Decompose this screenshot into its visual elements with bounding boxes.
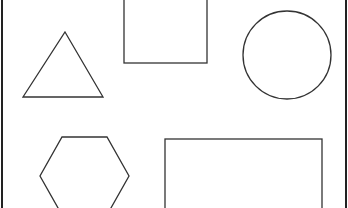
hexagon-shape [40,137,129,208]
rectangle-shape [165,139,322,208]
circle-shape [243,11,331,99]
triangle-shape [23,32,103,97]
shapes-canvas [0,0,348,208]
square-shape [124,0,207,63]
